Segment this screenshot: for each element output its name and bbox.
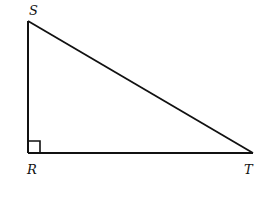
side-st: [28, 21, 253, 153]
triangle-diagram: S R T: [0, 0, 266, 222]
vertex-label-t: T: [244, 162, 254, 177]
vertex-label-s: S: [29, 3, 38, 18]
right-angle-marker: [28, 141, 40, 153]
vertex-label-r: R: [26, 162, 37, 177]
